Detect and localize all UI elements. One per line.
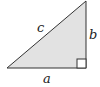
triangle-shape bbox=[7, 1, 86, 68]
label-a: a bbox=[43, 71, 51, 86]
label-b: b bbox=[89, 27, 97, 42]
right-angle-marker bbox=[77, 59, 86, 68]
label-c: c bbox=[37, 20, 45, 35]
right-triangle-diagram: c b a bbox=[0, 0, 100, 87]
